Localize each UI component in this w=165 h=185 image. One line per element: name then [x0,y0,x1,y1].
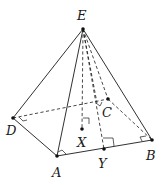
right-angle-mark-A [58,150,66,154]
point-B [150,138,154,142]
edge-ED [13,29,83,118]
point-X [80,127,84,131]
label-B: B [145,148,156,163]
right-angle-mark-B [140,136,146,141]
label-E: E [76,8,87,23]
edge-DA [13,118,57,156]
label-X: X [76,135,87,150]
point-Y [102,147,106,151]
point-C [106,97,110,101]
edge-EX [82,29,83,129]
point-D [11,116,15,120]
edge-DC [13,99,108,118]
point-A [55,154,59,158]
pyramid-diagram: E D A B C X Y [0,0,165,185]
right-angle-mark-X [83,118,89,124]
right-angle-mark-Y [103,138,114,146]
label-Y: Y [98,156,108,171]
point-E [81,27,85,31]
label-A: A [51,165,61,180]
label-C: C [102,105,112,120]
label-D: D [5,123,17,138]
right-angle-mark-D [19,117,27,121]
